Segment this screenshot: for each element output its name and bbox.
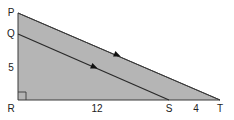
length-label-st: 4 <box>193 104 199 114</box>
point-label-r: R <box>7 104 14 114</box>
point-label-s: S <box>166 104 173 114</box>
point-label-t: T <box>217 104 223 114</box>
length-label-qr: 5 <box>8 63 14 73</box>
length-label-rs: 12 <box>91 104 102 114</box>
point-label-p: P <box>8 8 15 18</box>
diagram-figure <box>0 0 234 120</box>
point-label-q: Q <box>7 29 15 39</box>
triangle-diagram: P Q 5 R 12 S 4 T <box>0 0 234 120</box>
